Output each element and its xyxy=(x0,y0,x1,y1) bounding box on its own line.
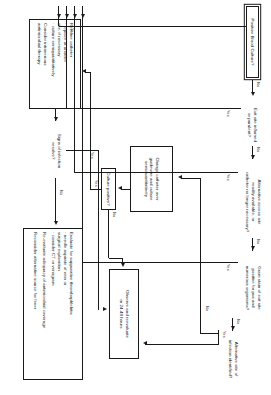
node-label-line-2: or purulent? xyxy=(247,113,253,137)
node-alternative-access-site[interactable]: Alternative access site readily availabl… xyxy=(239,160,267,244)
node-label-line-1: Exit site inflamed xyxy=(253,108,259,142)
node-label-line-1: Signs of infection xyxy=(56,134,62,168)
diagram-frame: Positive Blood Culture? Exit site inflam… xyxy=(0,0,271,395)
node-label-line-7: antimicrobial therapy xyxy=(36,23,42,65)
node-label-line-2: readily available, or xyxy=(250,183,256,222)
edge-change-to-culture xyxy=(121,189,130,190)
node-label-line-2: resolve? xyxy=(50,143,56,160)
node-label: Positive Blood Culture? xyxy=(250,19,256,66)
edge-alt-infection-to-change-h xyxy=(200,178,201,334)
edge-label-yes-exit-site: Yes xyxy=(226,110,231,117)
edge-exit-site-yes-v xyxy=(67,108,241,109)
arrowhead-gram-stain-yes xyxy=(81,14,85,18)
edge-label-no-start: No xyxy=(256,82,261,87)
arrowhead-exit-site-to-alt-access xyxy=(251,155,255,159)
edge-label-no-culture: No xyxy=(112,212,117,217)
arrowhead-exit-site-yes xyxy=(65,14,69,18)
edge-culture-to-observe-h xyxy=(108,210,109,258)
edge-gram-stain-yes-h xyxy=(82,6,83,263)
node-culture-positive[interactable]: Culture positive? xyxy=(101,168,116,210)
flowchart-canvas: Positive Blood Culture? Exit site inflam… xyxy=(0,0,271,395)
node-observe-and-reevaluate[interactable]: Observe and reevaluate in 24-48 hours xyxy=(109,269,139,359)
node-label-line-2: in 24-48 hours xyxy=(118,300,124,329)
arrowhead-signs-to-observe xyxy=(103,307,107,311)
arrowhead-alt-infection-to-observe xyxy=(143,341,147,345)
edge-alt-infection-to-change-v1 xyxy=(201,333,219,334)
edge-culture-to-remove-v1 xyxy=(91,189,101,190)
edge-label-no-gram-stain: No xyxy=(236,319,241,324)
node-label-line-3: site, if necessary xyxy=(57,23,63,57)
node-label-line-8: Reconsider alternative source for fever xyxy=(32,232,38,309)
node-evaluate-suppurative-thrombophlebitis[interactable]: Evaluate for suppurative thrombophlebiti… xyxy=(23,228,83,380)
arrowhead-signs-to-evaluate xyxy=(54,221,58,225)
edge-label-no-alt-access: No xyxy=(256,239,261,244)
edge-gram-stain-yes-v xyxy=(83,262,238,263)
node-label-line-3: surgical exploration xyxy=(56,232,62,271)
node-label-line-2: positive for pus and xyxy=(250,268,256,307)
edge-label-yes-alt-access: Yes xyxy=(226,174,231,181)
node-label-line-2: infection identified? xyxy=(227,340,233,379)
node-gram-stain-exit-site[interactable]: Gram stain of exit site positive for pus… xyxy=(239,251,267,325)
edge-signs-to-observe-v xyxy=(66,150,99,151)
node-label-line-6: Consider intravenous xyxy=(42,23,48,66)
node-label-line-1: Alternative site of xyxy=(233,342,239,377)
node-label-line-1: Alternative access site xyxy=(256,180,262,225)
node-label-line-3: numerous organisms? xyxy=(244,266,250,310)
edge-exit-site-yes-h xyxy=(66,6,67,109)
arrowhead-start-to-exit-site xyxy=(251,92,255,96)
edge-start-yes-v xyxy=(59,26,246,27)
edge-alt-infection-to-observe-v xyxy=(145,344,219,345)
arrowhead-change-to-culture xyxy=(118,186,122,190)
node-signs-of-infection-resolve[interactable]: Signs of infection resolve? xyxy=(46,126,66,176)
node-change-catheter-over-guidewire[interactable]: Change catheter over guidewire and cultu… xyxy=(130,146,173,212)
node-label: Culture positive? xyxy=(106,172,112,206)
edge-culture-to-observe-v xyxy=(109,258,123,259)
node-label-line-1: Change catheter over xyxy=(154,157,160,200)
node-positive-blood-culture[interactable]: Positive Blood Culture? xyxy=(246,6,259,78)
edge-label-no-alt-infection: No xyxy=(205,306,210,311)
edge-alt-access-yes-v xyxy=(75,172,238,173)
edge-label-yes-gram-stain: Yes xyxy=(226,264,231,271)
arrowhead-alt-access-yes xyxy=(73,14,77,18)
edge-alt-access-yes-h xyxy=(74,6,75,173)
node-label-line-1: Observe and reevaluate xyxy=(124,290,130,338)
arrowhead-gram-stain-to-alt-infection xyxy=(231,326,235,330)
edge-label-no-exit-site: No xyxy=(256,147,261,152)
node-label-line-2: guidewire and culture xyxy=(149,158,155,201)
edge-signs-to-observe-h xyxy=(98,150,99,310)
node-label-line-3: catheter no longer necessary? xyxy=(244,172,250,233)
arrowhead-alt-infection-to-change xyxy=(178,175,182,179)
edge-alt-infection-to-change-v2 xyxy=(181,178,201,179)
arrowhead-remove-to-signs xyxy=(54,117,58,121)
edge-label-yes-alt-infection: Yes xyxy=(222,331,227,338)
node-label-line-6: Re-evaluate adequacy of antimicrobial co… xyxy=(41,232,47,328)
edge-signs-to-evaluate xyxy=(55,178,56,222)
node-label-line-1: Evaluate for suppurative thrombophlebiti… xyxy=(68,232,74,315)
edge-label-yes-signs: Yes xyxy=(90,152,95,159)
arrowhead-culture-to-observe xyxy=(121,263,125,267)
node-label-line-3: semiquantitatively xyxy=(143,161,149,197)
edge-start-yes-h2 xyxy=(58,6,59,26)
arrowhead-alt-access-to-gram-stain xyxy=(251,246,255,250)
node-label-line-4: · culture semiquantitatively xyxy=(51,23,57,76)
node-alternative-site-of-infection[interactable]: Alternative site of infection identified… xyxy=(223,330,243,388)
node-label-line-1: Gram stain of exit site xyxy=(256,266,262,310)
edge-label-no-signs: No xyxy=(59,190,64,195)
node-label-line-2: · needle aspirate of vein or xyxy=(62,232,68,285)
node-label-line-4: · consider CT or venogram xyxy=(50,232,56,285)
